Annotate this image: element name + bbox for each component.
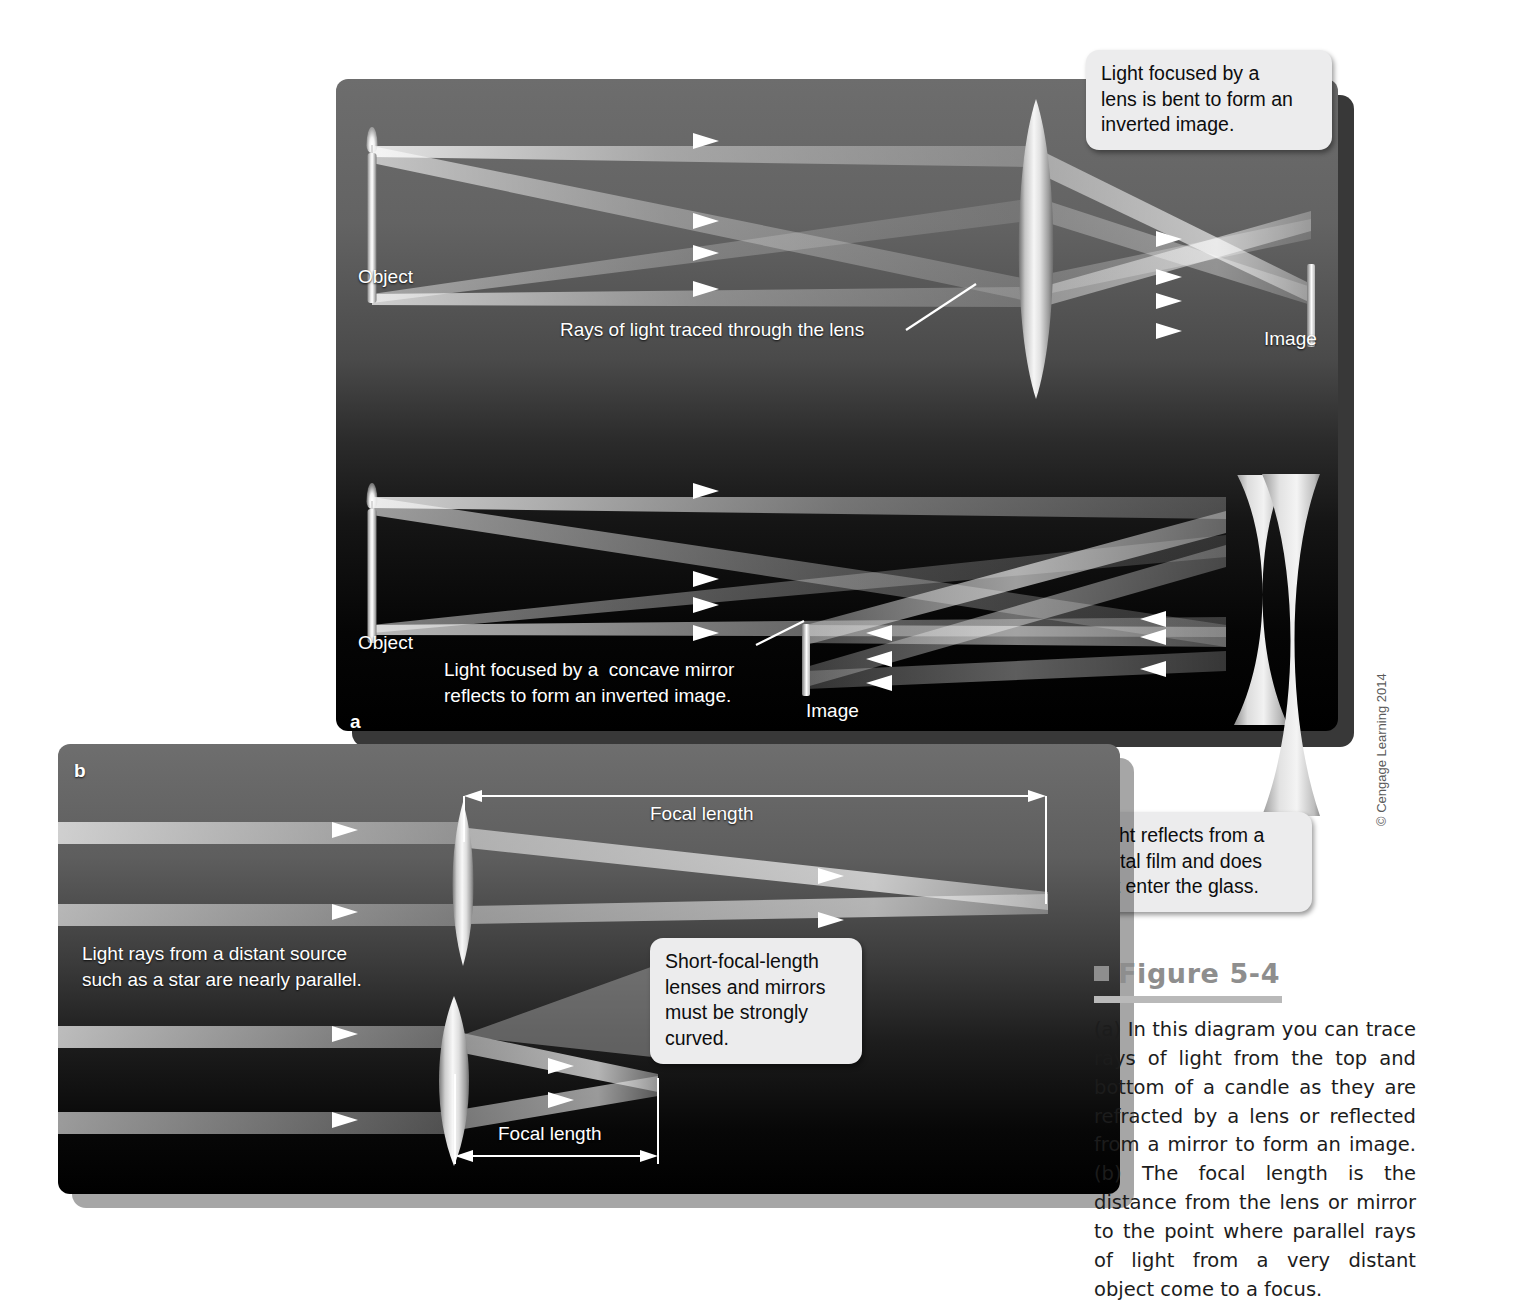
image-marker-mirror [802, 624, 810, 696]
callout-short-focal-length: Short-focal-length lenses and mirrors mu… [650, 938, 862, 1064]
panel-b-body: Focal length Focal length Light rays fro… [58, 744, 1120, 1194]
figure-rule-divider [1094, 996, 1282, 1003]
figure-number: Figure 5-4 [1118, 958, 1280, 989]
figure-caption-text: (a) In this diagram you can trace rays o… [1094, 1016, 1416, 1304]
panel-b-letter: b [74, 760, 86, 782]
callout-lens-inverted-image: Light focused by a lens is bent to form … [1086, 50, 1332, 150]
focal-length-label-short: Focal length [498, 1122, 602, 1146]
object-label-mirror: Object [358, 631, 413, 655]
figure-heading: Figure 5-4 [1094, 958, 1424, 989]
candle-body [368, 509, 377, 643]
focal-length-label-long: Focal length [650, 802, 754, 826]
image-label-lens: Image [1264, 327, 1317, 351]
parallel-rays-note: Light rays from a distant source such as… [82, 941, 362, 993]
copyright-credit: © Cengage Learning 2014 [1374, 673, 1389, 826]
figure-caption-block: Figure 5-4 (a) In this diagram you can t… [1094, 958, 1424, 1304]
panel-a: Object Rays of light traced through the … [336, 79, 1338, 731]
object-label-lens: Object [358, 265, 413, 289]
candle-object-mirror [362, 483, 382, 643]
ray-trace-label: Rays of light traced through the lens [560, 318, 864, 342]
panel-a-letter: a [350, 711, 361, 731]
panel-a-body: Object Rays of light traced through the … [336, 79, 1338, 731]
image-label-mirror: Image [806, 699, 859, 723]
panel-b: Focal length Focal length Light rays fro… [58, 744, 1120, 1194]
mirror-note: Light focused by a concave mirror reflec… [444, 657, 734, 708]
figure-bullet-icon [1094, 966, 1109, 981]
